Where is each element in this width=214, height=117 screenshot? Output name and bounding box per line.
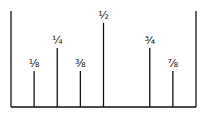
tick-label: ¼ [52,34,63,47]
tick-label: ½ [98,9,109,22]
tick-label: ⅞ [168,57,179,70]
ruler-diagram: ⅛¼⅜½¾⅞ [0,0,214,117]
tick-label: ⅛ [29,57,40,70]
tick-label: ¾ [144,34,155,47]
tick-label: ⅜ [75,57,86,70]
